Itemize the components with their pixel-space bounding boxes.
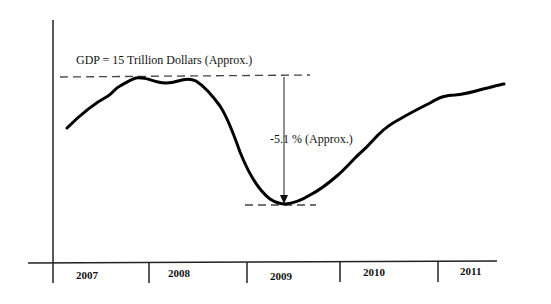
x-ticks [149, 262, 438, 283]
drop-annotation-label: -5.1 % (Approx.) [270, 132, 353, 147]
chart-canvas [0, 0, 551, 304]
peak-reference-line [60, 75, 310, 77]
x-tick-label-2009: 2009 [270, 270, 292, 282]
peak-annotation-label: GDP = 15 Trillion Dollars (Approx.) [76, 53, 252, 68]
x-tick-label-2011: 2011 [460, 265, 481, 277]
x-axis [28, 261, 497, 263]
x-tick-label-2008: 2008 [168, 267, 190, 279]
x-tick-label-2007: 2007 [76, 269, 98, 281]
x-tick-label-2010: 2010 [363, 266, 385, 278]
